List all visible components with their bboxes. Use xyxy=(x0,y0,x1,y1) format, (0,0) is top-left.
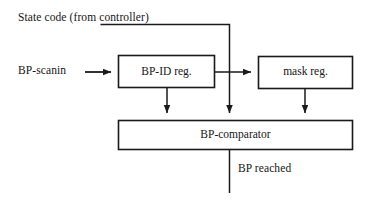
block-label-bp-comparator: BP-comparator xyxy=(118,129,353,141)
label-state-code: State code (from controller) xyxy=(18,12,149,24)
diagram-graphics xyxy=(0,0,369,200)
label-bp-scanin: BP-scanin xyxy=(18,65,66,77)
block-label-mask-reg: mask reg. xyxy=(258,66,353,78)
block-label-bp-id-reg: BP-ID reg. xyxy=(118,66,215,78)
diagram-canvas: State code (from controller) BP-scanin B… xyxy=(0,0,369,200)
label-bp-reached: BP reached xyxy=(238,163,291,175)
